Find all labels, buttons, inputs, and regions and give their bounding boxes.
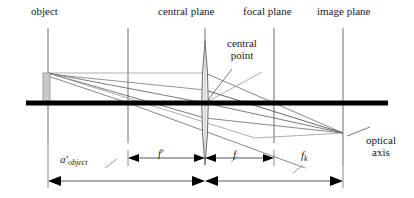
ray-lower-incoming bbox=[48, 76, 128, 103]
dim-f-arrow-left bbox=[205, 154, 216, 162]
diagram-canvas bbox=[0, 0, 414, 198]
dim-aobject-leader bbox=[105, 159, 117, 168]
dim-fk-subscript: k bbox=[304, 154, 308, 163]
dim-label-f: f bbox=[233, 149, 236, 161]
dim-fprime-prime: ′ bbox=[161, 147, 163, 159]
dim-f-arrow-right bbox=[263, 154, 274, 162]
dim-a-subscript: object bbox=[68, 158, 88, 167]
dim-fprime-arrow-right bbox=[194, 154, 205, 162]
ray-lower-secondary-ext bbox=[255, 133, 343, 138]
label-central-point: central point bbox=[227, 38, 257, 61]
dim-label-f-k: fk bbox=[301, 150, 308, 163]
ray-focal-incoming bbox=[48, 73, 205, 118]
dim-aobject-arrow-right bbox=[192, 176, 205, 186]
dim-fk-arrow-left bbox=[205, 176, 218, 186]
optics-diagram: object central plane focal plane image p… bbox=[0, 0, 414, 198]
optical-axis-bar bbox=[26, 101, 388, 106]
label-central-point-line1: central bbox=[227, 38, 257, 50]
central-point-leader bbox=[208, 69, 232, 100]
label-optical-axis: optical axis bbox=[366, 135, 396, 158]
dim-fk-leader bbox=[293, 165, 303, 173]
dim-label-f-prime: f′ bbox=[158, 148, 163, 160]
dim-fk-arrow-right bbox=[330, 176, 343, 186]
label-central-plane: central plane bbox=[158, 6, 215, 18]
label-image-plane: image plane bbox=[317, 6, 370, 18]
label-optical-axis-line1: optical bbox=[366, 135, 396, 147]
dim-label-a-object: a′object bbox=[60, 154, 87, 167]
label-central-point-line2: point bbox=[227, 50, 257, 62]
label-focal-plane: focal plane bbox=[243, 6, 292, 18]
dim-aobject-arrow-left bbox=[48, 176, 61, 186]
label-optical-axis-line2: axis bbox=[366, 147, 396, 159]
dim-f-symbol: f bbox=[233, 148, 236, 160]
dim-fprime-arrow-left bbox=[128, 154, 139, 162]
object-bar bbox=[43, 73, 50, 103]
label-object: object bbox=[31, 6, 58, 18]
